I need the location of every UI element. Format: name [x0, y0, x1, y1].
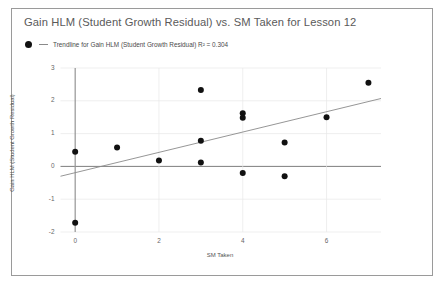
- legend-trendline-icon: [39, 44, 48, 45]
- chart-container: Gain HLM (Student Growth Residual) vs. S…: [11, 8, 433, 276]
- legend-label: Trendline for Gain HLM (Student Growth R…: [53, 41, 228, 48]
- chart-title: Gain HLM (Student Growth Residual) vs. S…: [24, 16, 356, 28]
- legend-marker-dot-icon: [25, 41, 32, 48]
- chart-legend: Trendline for Gain HLM (Student Growth R…: [25, 38, 228, 50]
